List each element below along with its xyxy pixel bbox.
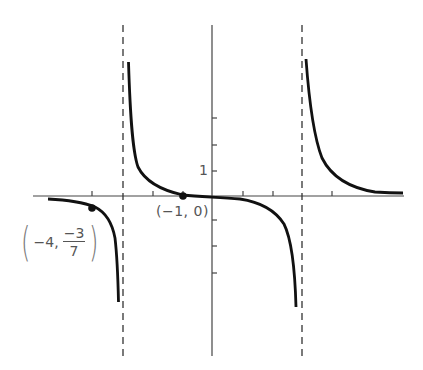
point-label-neg4: ( −4, −3 7 ) bbox=[18, 222, 102, 262]
fraction-numerator: −3 bbox=[63, 226, 86, 242]
x-coord: −4, bbox=[34, 234, 59, 250]
open-paren: ( bbox=[21, 222, 30, 262]
point-neg4 bbox=[88, 204, 96, 212]
close-paren: ) bbox=[89, 222, 98, 262]
point-neg1 bbox=[179, 192, 187, 200]
graph-canvas bbox=[0, 0, 423, 370]
curve-right-branch bbox=[306, 59, 403, 193]
y-tick-label-1: 1 bbox=[199, 163, 208, 177]
fraction-denominator: 7 bbox=[70, 242, 79, 258]
y-fraction: −3 7 bbox=[63, 226, 86, 258]
point-label-neg1: (−1, 0) bbox=[156, 204, 209, 218]
